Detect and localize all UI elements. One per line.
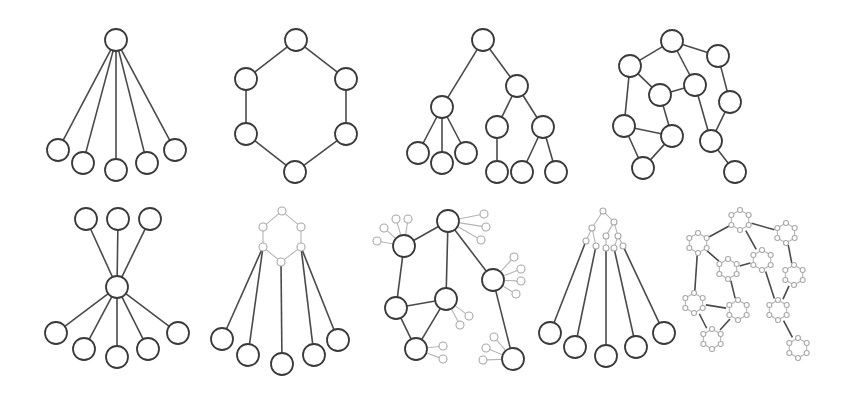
edge [447, 117, 461, 143]
satellite-edge [427, 353, 439, 357]
edge [698, 96, 708, 131]
node [235, 123, 257, 145]
ring-node [804, 351, 809, 356]
node [532, 116, 554, 138]
small-node [603, 233, 609, 239]
edge [122, 229, 145, 277]
edge [752, 223, 775, 229]
node [285, 29, 307, 51]
ring-edge [692, 234, 696, 237]
ring-node [751, 253, 756, 258]
ring-node [692, 291, 697, 296]
ring-edge [788, 224, 792, 227]
edge [407, 301, 435, 306]
satellite-node [490, 333, 498, 341]
edge [448, 49, 478, 97]
ring-node [734, 262, 739, 267]
ring-edge [756, 251, 760, 254]
ring-node [800, 278, 805, 283]
ring-edge [788, 266, 792, 269]
node [625, 336, 647, 358]
ring-edge [792, 339, 796, 342]
node [106, 346, 128, 368]
node [437, 210, 459, 232]
ring-node [784, 313, 789, 318]
satellite-node [380, 224, 388, 232]
small-edge [605, 213, 612, 220]
satellite-node [439, 342, 447, 350]
ring-edge [706, 330, 710, 333]
edge [527, 137, 539, 162]
small-node [259, 223, 267, 231]
node [707, 45, 729, 67]
edge [788, 245, 792, 263]
ring-edge [732, 301, 736, 304]
node [105, 159, 127, 181]
ring-edge [800, 354, 804, 357]
node [486, 161, 508, 183]
ring-node [729, 213, 734, 218]
small-node [277, 258, 285, 266]
ring-node [717, 272, 722, 277]
small-node [615, 233, 621, 239]
edge [682, 44, 707, 52]
ring-edge [696, 309, 700, 312]
network-graph [613, 30, 746, 183]
node [719, 91, 741, 113]
node [700, 130, 722, 152]
small-edge [615, 225, 617, 233]
satellite-edge [458, 227, 477, 238]
satellite-edge [456, 306, 466, 313]
node [564, 336, 586, 358]
ring-node [792, 226, 797, 231]
ring-edge [696, 294, 700, 297]
node [613, 115, 635, 137]
ring-edge [722, 260, 726, 263]
small-edge [285, 214, 298, 225]
node [385, 297, 407, 319]
node [284, 161, 306, 183]
ring-node [700, 306, 705, 311]
small-edge [266, 250, 278, 260]
ring-node [792, 263, 797, 268]
ring-node [751, 263, 756, 268]
ring-edge [740, 316, 744, 319]
ring-edge [772, 301, 776, 304]
ring-node [776, 318, 781, 323]
edge [63, 50, 111, 141]
edge [250, 251, 263, 344]
satellite-edge [452, 310, 458, 322]
edge [707, 251, 719, 261]
edge [721, 67, 727, 92]
ring-node [787, 351, 792, 356]
ring-node [736, 318, 741, 323]
ring-node [700, 296, 705, 301]
satellite-edge [497, 340, 506, 350]
satellite-edge [460, 215, 480, 219]
ring-node [683, 296, 688, 301]
ring-edge [700, 234, 704, 237]
ring-node [784, 221, 789, 226]
edge [635, 128, 661, 134]
edge [423, 117, 437, 143]
node [335, 68, 357, 90]
ring-edge [796, 281, 800, 284]
edge [305, 47, 338, 72]
node [545, 161, 567, 183]
small-node [297, 243, 305, 251]
ring-node [727, 303, 732, 308]
edge [496, 291, 511, 349]
satellite-node [477, 236, 485, 244]
satellite-edge [381, 242, 392, 244]
node [684, 74, 706, 96]
node [431, 96, 453, 118]
edge [699, 314, 706, 329]
ring-node [687, 236, 692, 241]
ring-edge [730, 260, 734, 263]
ring-node [736, 298, 741, 303]
satellite-node [512, 290, 520, 298]
ring-edge [800, 339, 804, 342]
ring-edge [788, 239, 792, 242]
edge [638, 74, 652, 88]
ring-edge [734, 211, 738, 214]
